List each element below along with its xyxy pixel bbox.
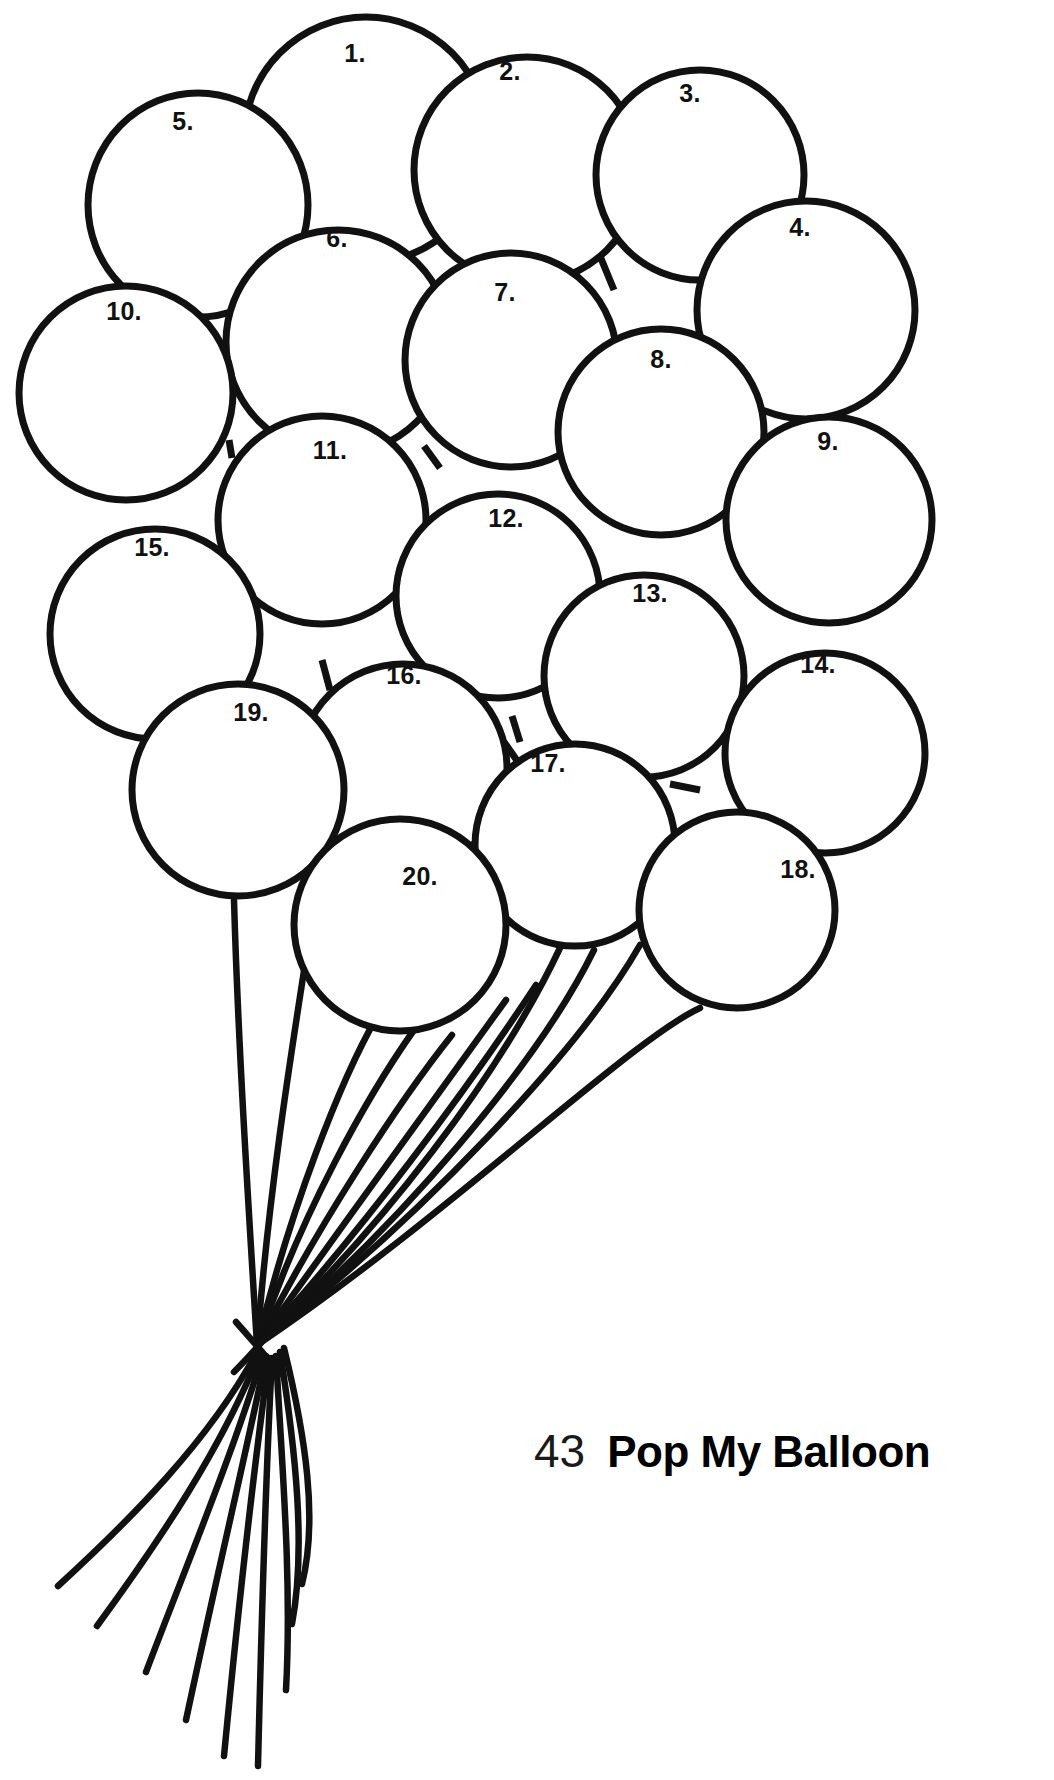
page-title: Pop My Balloon (607, 1427, 930, 1477)
balloon-label-15: 15. (134, 533, 170, 561)
balloon-label-1: 1. (344, 39, 365, 67)
balloon-18[interactable] (639, 812, 835, 1008)
balloon-label-11: 11. (313, 436, 347, 464)
balloon-label-2: 2. (499, 57, 520, 85)
balloon-label-8: 8. (650, 345, 671, 373)
balloon-label-13: 13. (632, 579, 668, 607)
balloon-bunch-illustration: 1. 2. 3. 4. 5. 6. 7. 8. 9. 10. 11. 12. 1… (0, 0, 1054, 1780)
balloon-20[interactable] (294, 819, 506, 1031)
balloon-label-5: 5. (172, 107, 193, 135)
balloon-label-19: 19. (233, 698, 269, 726)
balloon-label-7: 7. (494, 278, 515, 306)
balloon-label-6: 6. (326, 224, 347, 252)
balloon-label-10: 10. (106, 297, 142, 325)
balloon-label-14: 14. (800, 650, 836, 678)
balloon-label-4: 4. (789, 213, 810, 241)
balloon-label-12: 12. (488, 504, 524, 532)
balloon-label-9: 9. (817, 427, 838, 455)
balloon-label-20: 20. (402, 862, 438, 890)
balloon-label-3: 3. (679, 79, 700, 107)
balloon-label-16: 16. (386, 661, 422, 689)
page-footer: 43 Pop My Balloon (534, 1424, 930, 1478)
page-number: 43 (534, 1424, 585, 1478)
balloon-label-18: 18. (780, 855, 816, 883)
coloring-page: 1. 2. 3. 4. 5. 6. 7. 8. 9. 10. 11. 12. 1… (0, 0, 1054, 1780)
balloon-label-17: 17. (530, 749, 566, 777)
